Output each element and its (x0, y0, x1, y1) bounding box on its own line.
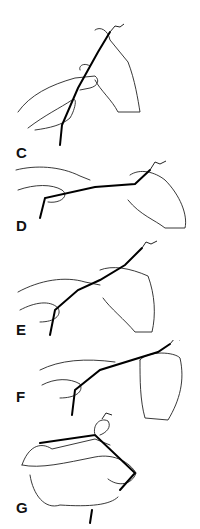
panel-c: C (0, 0, 200, 165)
hands-suture-illustration-d (0, 160, 200, 245)
panel-label: F (16, 389, 25, 404)
panel-g: G (0, 405, 200, 529)
panel-label: E (16, 322, 26, 337)
panel-label: D (16, 218, 27, 233)
panel-label: G (16, 500, 28, 515)
hands-suture-illustration-e (0, 240, 200, 345)
panel-e: E (0, 240, 200, 345)
hands-suture-illustration-c (0, 0, 200, 165)
panel-label: C (16, 145, 27, 160)
panel-d: D (0, 160, 200, 245)
hands-suture-illustration-g (0, 405, 200, 529)
